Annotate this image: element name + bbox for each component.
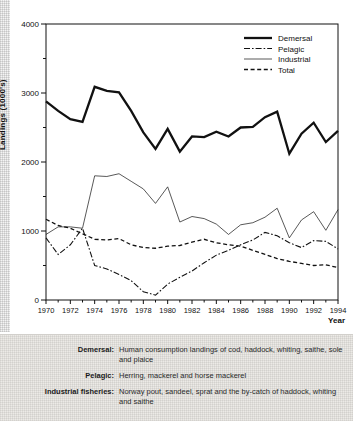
x-tick-label: 1976	[111, 306, 128, 315]
x-axis-title: Year	[328, 316, 345, 325]
legend-label-total: Total	[278, 66, 295, 75]
y-tick-label: 1000	[21, 227, 39, 236]
definitions-panel: Demersal: Human consumption landings of …	[0, 334, 353, 421]
y-tick-label: 0	[35, 296, 40, 305]
definition-text: Human consumption landings of cod, haddo…	[119, 345, 347, 365]
y-tick-label: 4000	[21, 20, 39, 29]
definition-text: Herring, mackerel and horse mackerel	[119, 371, 246, 381]
x-tick-label: 1972	[62, 306, 79, 315]
x-tick-label: 1978	[135, 306, 152, 315]
x-axis-tick-labels: 1970197219741976197819801982198419861988…	[38, 306, 347, 315]
y-axis-ticks	[41, 24, 46, 300]
y-axis-tick-labels: 01000200030004000	[21, 20, 39, 305]
chart-legend: DemersalPelagicIndustrialTotal	[238, 30, 337, 75]
definition-row-industrial: Industrial fisheries: Norway pout, sande…	[6, 381, 347, 407]
x-tick-label: 1986	[232, 306, 249, 315]
legend-label-demersal: Demersal	[278, 34, 312, 43]
legend-label-pelagic: Pelagic	[278, 45, 304, 54]
x-tick-label: 1970	[38, 306, 55, 315]
x-tick-label: 1974	[86, 306, 103, 315]
x-tick-label: 1990	[281, 306, 298, 315]
definition-text: Norway pout, sandeel, sprat and the by-c…	[119, 387, 347, 407]
x-tick-label: 1994	[330, 306, 347, 315]
x-tick-label: 1988	[257, 306, 274, 315]
x-tick-label: 1982	[184, 306, 201, 315]
definition-row-demersal: Demersal: Human consumption landings of …	[6, 335, 347, 365]
y-tick-label: 2000	[21, 158, 39, 167]
x-axis-ticks	[46, 300, 338, 304]
chart-figure: Landings (1000's) Year 01000200030004000…	[0, 0, 353, 332]
y-axis-title: Landings (1000's)	[0, 79, 7, 150]
definition-row-pelagic: Pelagic: Herring, mackerel and horse mac…	[6, 365, 347, 381]
x-tick-label: 1980	[159, 306, 176, 315]
x-tick-label: 1984	[208, 306, 225, 315]
y-tick-label: 3000	[21, 89, 39, 98]
legend-label-industrial: Industrial	[278, 55, 311, 64]
definition-term: Demersal:	[6, 345, 119, 355]
definition-term: Industrial fisheries:	[6, 387, 119, 397]
definition-term: Pelagic:	[6, 371, 119, 381]
x-tick-label: 1992	[305, 306, 322, 315]
landings-line-chart: 01000200030004000 1970197219741976197819…	[0, 0, 353, 332]
